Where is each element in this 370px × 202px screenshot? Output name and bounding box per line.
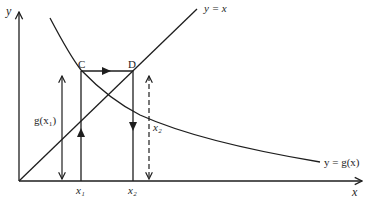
- x2-height-label: x₂: [152, 121, 162, 133]
- point-d-label: D: [128, 58, 136, 70]
- function-curve: [50, 18, 320, 162]
- y-axis-label: y: [5, 4, 12, 18]
- point-c-label: C: [78, 58, 85, 70]
- x2-tick-label: x₂: [127, 184, 137, 196]
- right-arrow-icon: [102, 67, 111, 75]
- down-arrow-icon: [129, 122, 137, 131]
- identity-line-label: y = x: [203, 2, 227, 14]
- function-curve-label: y = g(x): [324, 156, 360, 169]
- cobweb-diagram: y x y = x y = g(x) C D g(x₁) x₂ x₁ x₂: [0, 0, 370, 202]
- g-x1-label: g(x₁): [34, 114, 56, 127]
- up-arrow-icon: [77, 128, 85, 137]
- x-axis-label: x: [351, 185, 358, 199]
- x1-tick-label: x₁: [75, 184, 85, 196]
